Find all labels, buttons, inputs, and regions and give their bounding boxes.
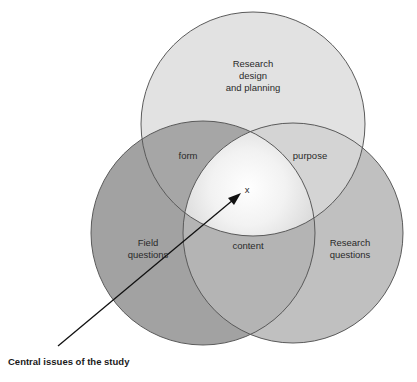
arrow-caption: Central issues of the study (8, 356, 129, 367)
label-top-circle: Research design and planning (218, 58, 288, 94)
label-line: Field (118, 237, 178, 249)
label-line: design (218, 70, 288, 82)
label-line: questions (315, 249, 385, 261)
label-line: questions (118, 249, 178, 261)
label-line: Research (218, 58, 288, 70)
label-line: Research (315, 237, 385, 249)
label-center-x: x (240, 184, 254, 196)
label-content: content (222, 240, 274, 252)
label-left-circle: Field questions (118, 237, 178, 261)
venn-diagram (0, 0, 417, 382)
label-purpose: purpose (280, 150, 340, 162)
label-line: and planning (218, 82, 288, 94)
label-right-circle: Research questions (315, 237, 385, 261)
label-form: form (168, 150, 208, 162)
